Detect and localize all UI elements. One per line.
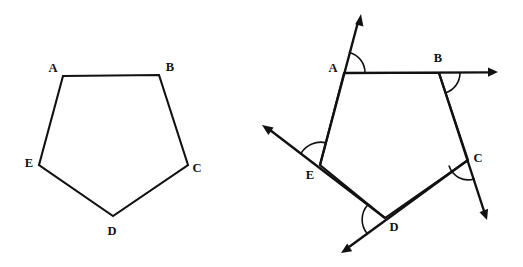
right-pentagon-group: A B C D E [262, 14, 498, 253]
left-pentagon-outline [39, 75, 188, 216]
angle-arcs-group [301, 53, 474, 234]
exterior-angle-E-arc [301, 142, 325, 153]
left-pentagon-group: A B C D E [25, 60, 202, 238]
right-vertex-label-D: D [389, 220, 398, 234]
right-vertex-label-E: E [306, 168, 314, 182]
ray-at-B-arrowhead [488, 68, 498, 77]
right-vertex-label-C: C [473, 151, 482, 165]
exterior-angle-A-arc [350, 53, 366, 74]
ray-at-E-arrowhead [262, 125, 274, 135]
exterior-angle-B-arc [446, 73, 460, 93]
exterior-rays-group [262, 14, 498, 253]
left-vertex-label-A: A [48, 61, 57, 75]
right-pentagon-outline [320, 73, 468, 218]
figure-root: A B C D E [0, 0, 523, 267]
right-vertex-label-A: A [328, 61, 337, 75]
exterior-angle-D-arc [362, 205, 368, 234]
left-vertex-label-D: D [107, 224, 116, 238]
geometry-diagram: A B C D E [0, 0, 523, 267]
right-vertex-label-B: B [434, 51, 442, 65]
left-vertex-label-C: C [192, 161, 201, 175]
left-vertex-label-B: B [166, 60, 174, 74]
left-vertex-label-E: E [25, 156, 33, 170]
